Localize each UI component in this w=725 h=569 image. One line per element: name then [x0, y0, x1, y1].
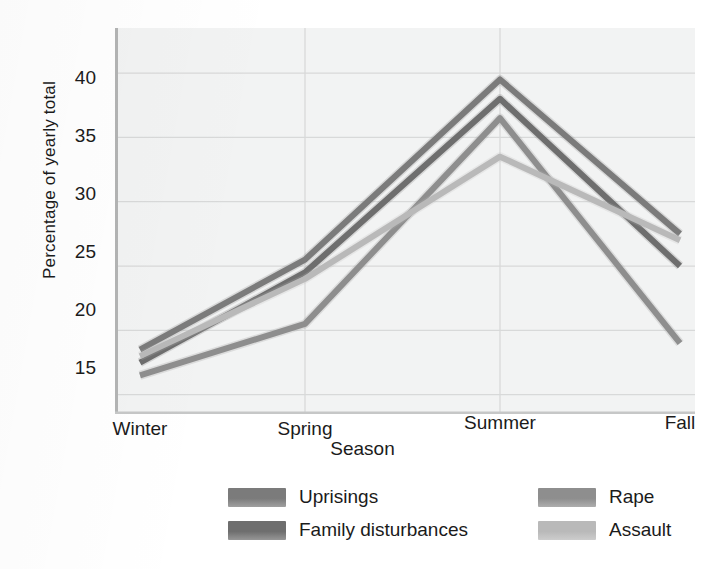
legend-item-assault[interactable]: Assault [538, 519, 671, 541]
legend-label-assault: Assault [609, 519, 671, 541]
y-tick-35: 35 [52, 125, 96, 147]
x-axis-title: Season [0, 438, 725, 460]
y-tick-30: 30 [52, 183, 96, 205]
legend-swatch-uprisings [228, 488, 286, 507]
y-tick-20: 20 [52, 299, 96, 321]
legend-swatch-family-disturbances [228, 521, 286, 540]
legend-item-family-disturbances[interactable]: Family disturbances [228, 519, 468, 541]
chart-legend: Uprisings Family disturbances Rape Assau… [0, 486, 725, 556]
plot-area [115, 28, 695, 414]
x-tick-fall: Fall [665, 412, 696, 434]
legend-item-uprisings[interactable]: Uprisings [228, 486, 378, 508]
legend-label-uprisings: Uprisings [299, 486, 378, 508]
legend-swatch-rape [538, 488, 596, 507]
legend-label-rape: Rape [609, 486, 654, 508]
y-tick-25: 25 [52, 241, 96, 263]
x-tick-summer: Summer [464, 412, 536, 434]
x-tick-winter: Winter [113, 418, 168, 440]
y-tick-15: 15 [52, 357, 96, 379]
legend-label-family-disturbances: Family disturbances [299, 519, 468, 541]
legend-swatch-assault [538, 521, 596, 540]
y-tick-40: 40 [52, 67, 96, 89]
line-chart-figure: Percentage of yearly total 40 35 30 25 2… [0, 0, 725, 569]
x-tick-spring: Spring [278, 418, 333, 440]
y-axis-tick-labels: 40 35 30 25 20 15 [48, 0, 96, 569]
chart-canvas [115, 28, 695, 414]
legend-item-rape[interactable]: Rape [538, 486, 654, 508]
